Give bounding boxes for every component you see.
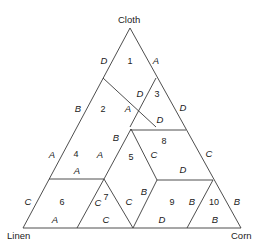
vertex-label-top: Cloth [118, 14, 140, 25]
edge-label: C [95, 197, 102, 208]
region-label: 6 [59, 197, 64, 207]
region-label: 5 [128, 152, 133, 162]
region-label: 10 [209, 197, 219, 207]
edge-label: D [137, 88, 144, 99]
edge-label: C [103, 214, 110, 225]
region-label: 1 [127, 56, 132, 66]
region-label: 2 [100, 104, 105, 114]
edge-label: B [141, 186, 148, 197]
edge-label: C [206, 148, 213, 159]
region-label: 3 [154, 89, 159, 99]
edge-label: D [101, 55, 108, 66]
region-label: 4 [73, 149, 78, 159]
edge-label: A [73, 165, 80, 176]
edge-label: A [51, 214, 58, 225]
edge-label: D [159, 214, 166, 225]
edge-label: C [25, 196, 32, 207]
vertex-label-left: Linen [7, 230, 30, 241]
edge-label: A [124, 103, 131, 114]
edge-label: B [75, 103, 82, 114]
boundary-line [130, 78, 156, 127]
edge-label: A [96, 149, 103, 160]
edge-label: D [157, 114, 164, 125]
edge-label: A [48, 149, 55, 160]
edge-label: C [151, 149, 158, 160]
region-label: 8 [161, 136, 166, 146]
ternary-region-diagram: Cloth Linen Corn 1 2 3 4 5 6 7 8 9 10 D … [0, 0, 264, 251]
edge-label: B [113, 132, 120, 143]
edge-label: D [180, 102, 187, 113]
edge-label: A [152, 55, 159, 66]
edge-label: B [189, 196, 196, 207]
region-label: 7 [103, 192, 108, 202]
edge-label: B [234, 196, 241, 207]
edge-label: B [212, 214, 219, 225]
edge-label: C [126, 196, 133, 207]
edge-label: D [180, 164, 187, 175]
vertex-label-right: Corn [231, 230, 252, 241]
region-label: 9 [169, 197, 174, 207]
